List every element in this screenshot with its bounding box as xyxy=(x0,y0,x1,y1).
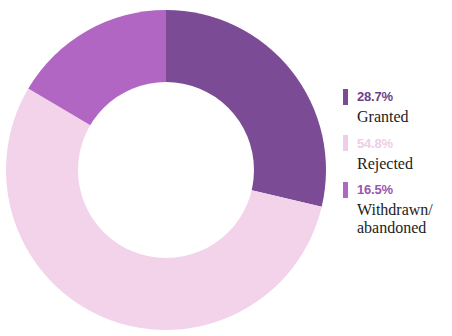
donut-chart-graphic xyxy=(6,10,326,330)
legend-item-rejected[interactable]: 54.8% Rejected xyxy=(343,135,452,173)
legend-percent-rejected: 54.8% xyxy=(357,137,393,150)
legend-percent-granted: 28.7% xyxy=(357,90,393,103)
legend-value-row: 28.7% xyxy=(343,88,452,105)
legend-value-row: 54.8% xyxy=(343,135,452,152)
donut-svg xyxy=(6,10,326,330)
legend-swatch-granted xyxy=(343,89,348,105)
legend-label-rejected: Rejected xyxy=(357,155,452,173)
legend-label-granted: Granted xyxy=(357,108,452,126)
donut-chart-figure: 28.7% Granted 54.8% Rejected 16.5% Withd… xyxy=(0,0,452,336)
legend-percent-withdrawn-abandoned: 16.5% xyxy=(357,183,393,196)
donut-center-hole xyxy=(78,82,254,258)
legend-swatch-withdrawn-abandoned xyxy=(343,182,348,198)
legend-value-row: 16.5% xyxy=(343,181,452,198)
legend-item-granted[interactable]: 28.7% Granted xyxy=(343,88,452,126)
legend-swatch-rejected xyxy=(343,135,348,151)
chart-legend: 28.7% Granted 54.8% Rejected 16.5% Withd… xyxy=(343,88,452,245)
legend-item-withdrawn-abandoned[interactable]: 16.5% Withdrawn/ abandoned xyxy=(343,181,452,236)
legend-label-withdrawn-abandoned: Withdrawn/ abandoned xyxy=(357,201,452,236)
